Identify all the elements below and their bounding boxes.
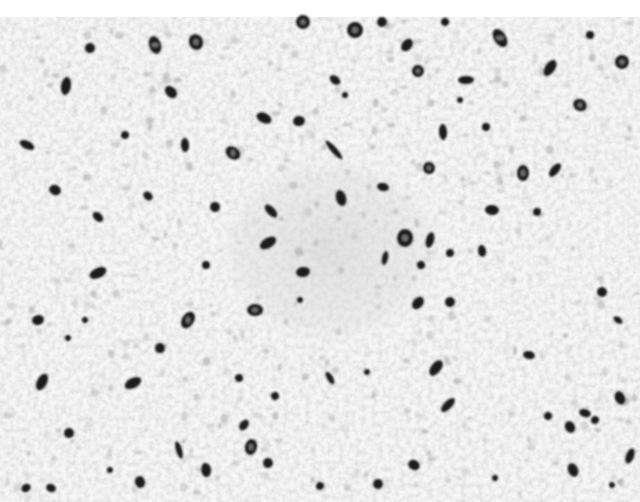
micrograph-stage [0, 0, 640, 502]
micrograph-image [0, 0, 640, 502]
stained-cell [373, 479, 383, 489]
stained-cell [64, 428, 74, 438]
